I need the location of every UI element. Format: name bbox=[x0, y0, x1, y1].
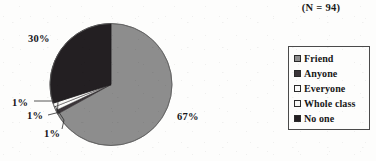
pie-chart-plot-area: 67% 1% 1% 1% 30% bbox=[0, 0, 240, 161]
whole-class-swatch bbox=[294, 100, 301, 107]
legend-label-no-one: No one bbox=[304, 113, 334, 124]
friend-swatch bbox=[294, 55, 301, 62]
chart-legend: Friend Anyone Everyone Whole class No on… bbox=[288, 46, 370, 130]
no-one-swatch bbox=[294, 115, 301, 122]
anyone-swatch bbox=[294, 70, 301, 77]
legend-label-anyone: Anyone bbox=[304, 68, 337, 79]
data-label-anyone: 1% bbox=[12, 97, 28, 108]
legend-label-whole-class: Whole class bbox=[304, 98, 355, 109]
legend-label-everyone: Everyone bbox=[304, 83, 345, 94]
legend-item-friend: Friend bbox=[294, 51, 366, 66]
legend-item-no-one: No one bbox=[294, 111, 366, 126]
sample-size-caption: (N = 94) bbox=[276, 2, 366, 13]
legend-label-friend: Friend bbox=[304, 53, 334, 64]
pie-chart-figure: (N = 94) 67% 1% 1% 1% 30% bbox=[0, 0, 376, 161]
legend-item-everyone: Everyone bbox=[294, 81, 366, 96]
data-label-friend: 67% bbox=[177, 111, 199, 122]
pie-chart-svg bbox=[0, 0, 240, 161]
data-label-no-one: 30% bbox=[28, 33, 50, 44]
legend-item-whole-class: Whole class bbox=[294, 96, 366, 111]
data-label-everyone: 1% bbox=[27, 110, 43, 121]
everyone-swatch bbox=[294, 85, 301, 92]
legend-item-anyone: Anyone bbox=[294, 66, 366, 81]
data-label-whole-class: 1% bbox=[44, 128, 60, 139]
